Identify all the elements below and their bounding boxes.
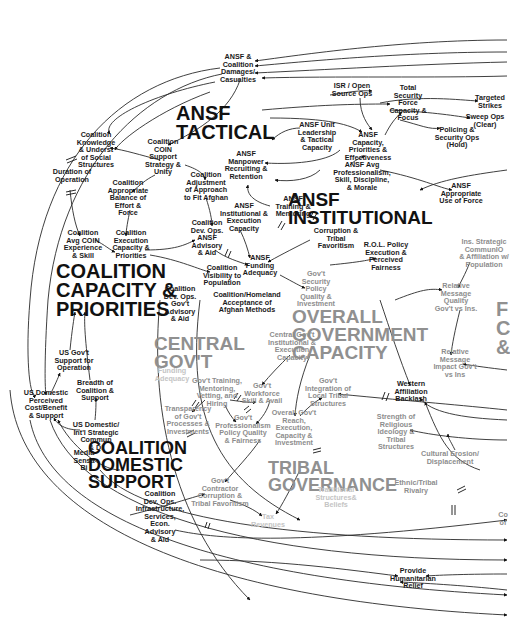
node-traditional-structures: Traditional Structures& Beliefs xyxy=(315,486,356,509)
node-rol-policy-execution: R.O.L. Policy Execution & Perceived Fair… xyxy=(364,241,408,271)
node-cultural-erosion: Cultural Erosion/ Displacement xyxy=(421,450,479,465)
node-ethnic-tribal-rivalry: Ethnic/Tribal Rivalry xyxy=(394,479,437,494)
node-ins-strategic-commun: Ins. Strategic CommunIO & Affiliation w/… xyxy=(459,238,509,268)
node-duration-of-operation: Duration of Operation xyxy=(53,168,91,183)
node-coalition-knowledge: Coalition Knowledge & Underst of Social … xyxy=(77,131,115,169)
node-ansf-unit-leadership: ANSF Unit Leadership & Tactical Capacity xyxy=(298,121,336,151)
node-coalition-dev-ops-ansf: Coalition Dev. Ops. ANSF Advisory & Aid xyxy=(191,219,224,257)
sector-ansf-tactical: ANSF TACTICAL xyxy=(176,104,275,142)
node-us-govt-support: US Gov't Support for Operation xyxy=(54,349,93,372)
node-policing-security-ops: Policing & Security Ops (Hold) xyxy=(435,126,479,149)
node-total-security-force: Total Security Force Capacity & Focus xyxy=(389,84,426,122)
node-govt-contractor-corruption: Gov't Contractor Corruption & Tribal Fav… xyxy=(191,477,249,507)
node-breadth-of-coalition: Breadth of Coalition & Support xyxy=(76,379,114,402)
node-govt-security-policy: Gov't Security Policy Quality & Investme… xyxy=(297,270,335,308)
node-coalition-appropriate-balance: Coalition Appropriate Balance of Effort … xyxy=(108,179,149,217)
node-relative-message-quality: Relative Message Quality Gov't vs Ins. xyxy=(435,282,477,312)
node-isr-open-source-ops: ISR / Open Source Ops xyxy=(332,82,372,97)
node-govt-integration-tribal: Gov't Integration of Local Tribal Struct… xyxy=(305,377,351,407)
node-ansf-institutional-capacity: ANSF Institutional & Execution Capacity xyxy=(220,202,268,232)
node-ansf-training-mentoring: ANSF Training & Mentoring xyxy=(275,195,310,218)
sector-coalition-capacity: COALITION CAPACITY & PRIORITIES xyxy=(56,262,176,319)
node-ansf-avg-professionalism: ANSF Avg Professionalism, Skill, Discipl… xyxy=(333,161,391,191)
node-coalition-dev-ops-infrastructure: Coalition Dev. Ops. Infrastructure, Serv… xyxy=(136,490,185,543)
node-ansf-capacity-priorities: ANSF Capacity, Priorities & Effectivenes… xyxy=(345,131,391,161)
node-ansf-appropriate-force: ANSF Appropriate Use of Force xyxy=(439,182,483,205)
node-targeted-strikes: Targeted Strikes xyxy=(475,94,505,109)
node-transparency-govt: Transparency of Gov't Processes & Invest… xyxy=(165,405,212,435)
node-coalition-homeland-acceptance: Coalition/Homeland Acceptance of Afghan … xyxy=(213,291,281,314)
node-ansf-funding-adequacy: ANSF Funding Adequacy xyxy=(243,254,277,277)
node-tax-revenues: Tax Revenues xyxy=(251,513,285,528)
node-coalition-adjustment: Coalition Adjustment of Approach to Fit … xyxy=(184,171,228,201)
node-govt-workforce: Gov't Workforce Skill & Avail xyxy=(242,382,283,405)
node-provide-humanitarian-relief: Provide Humanitarian Relief xyxy=(390,567,436,590)
sector-partial-right: F C & xyxy=(496,300,510,357)
node-strength-religious-ideology: Strength of Religious Ideology & Tribal … xyxy=(377,413,415,451)
node-media-sensationalism: Media Sensa Bi xyxy=(73,449,94,472)
node-us-domestic-perceived-cost: US Domestic Perceived Cost/Benefit & Sup… xyxy=(24,389,68,419)
node-coalition-coin-support: Coalition COIN Support Strategy & Unity xyxy=(145,138,181,176)
node-relative-message-impact: Relative Message Impact Gov't vs Ins xyxy=(433,348,476,378)
node-funding-adequacy: Funding Adequacy xyxy=(155,367,189,382)
node-damages-casualties: ANSF & Coalition Damages/ Casualties xyxy=(220,53,256,83)
node-corruption-tribal-favoritism: Corruption & Tribal Favoritism xyxy=(314,227,358,250)
node-partial-right-bottom: Co of xyxy=(498,511,508,526)
node-ansf-manpower: ANSF Manpower Recruiting & Retention xyxy=(225,150,268,180)
node-coalition-avg-coin-experience: Coalition Avg COIN Experience & Skill xyxy=(64,229,102,259)
node-govt-professionalism: Gov't Professionalism Policy Quality & F… xyxy=(215,414,271,444)
node-coalition-execution-capacity: Coalition Execution Capacity & Prioritie… xyxy=(112,229,149,259)
node-western-affiliation-backlash: Western Affiliation Backlash xyxy=(394,380,427,403)
node-govt-training-mentoring: Gov't Training, Mentoring, Vetting, and … xyxy=(192,377,242,407)
node-overall-govt-reach: Overall Gov't Reach, Execution, Capacity… xyxy=(272,409,316,447)
node-coalition-dev-ops-govt: Coalition Dev. Ops. Gov't Advisory & Aid xyxy=(164,285,197,323)
node-central-govt-institutional: Central Gov't Institutional & Execution … xyxy=(268,331,316,361)
node-coalition-visibility: Coalition Visibility to Population xyxy=(203,264,241,287)
